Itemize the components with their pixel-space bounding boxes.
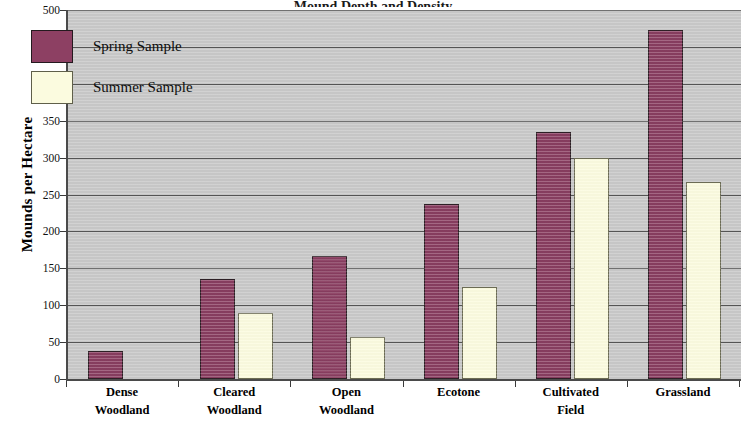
x-axis-category-label: ClearedWoodland [178,384,290,420]
bar [462,287,497,379]
bar-chart: Mound Depth and Density Mounds per Hecta… [0,0,746,423]
x-axis-category-label: DenseWoodland [66,384,178,420]
gridline [68,121,741,122]
x-axis-category-labels: DenseWoodlandClearedWoodlandOpenWoodland… [66,384,739,423]
chart-title-remnant: Mound Depth and Density [0,0,746,7]
bar [312,256,347,379]
gridline [68,305,741,306]
legend-label-spring: Spring Sample [93,38,182,55]
legend-label-summer: Summer Sample [93,79,193,96]
bar [686,182,721,379]
bar [350,337,385,379]
bar [424,204,459,379]
bar [200,279,235,379]
legend-item-spring[interactable]: Spring Sample [31,26,193,67]
x-axis-tick-mark [515,381,516,387]
x-axis-category-label: OpenWoodland [290,384,402,420]
legend-item-summer[interactable]: Summer Sample [31,67,193,108]
gridline [68,231,741,232]
bar [648,30,683,379]
bar [88,351,123,379]
x-axis-tick-mark [739,381,740,387]
x-axis-category-label: Grassland [627,384,739,402]
gridline [68,268,741,269]
legend-swatch-summer-icon [31,71,73,104]
x-axis-tick-mark [290,381,291,387]
bar [536,132,571,379]
x-axis-category-label: Ecotone [403,384,515,402]
gridline [68,10,741,11]
x-axis-tick-mark [403,381,404,387]
gridline [68,195,741,196]
gridline [68,342,741,343]
x-axis-category-label: CultivatedField [515,384,627,420]
x-axis-tick-mark [178,381,179,387]
gridline [68,158,741,159]
legend-swatch-spring-icon [31,30,73,63]
x-axis-tick-mark [627,381,628,387]
x-axis-tick-mark [66,381,67,387]
bar [574,158,609,379]
legend: Spring Sample Summer Sample [31,26,193,108]
bar [238,313,273,379]
